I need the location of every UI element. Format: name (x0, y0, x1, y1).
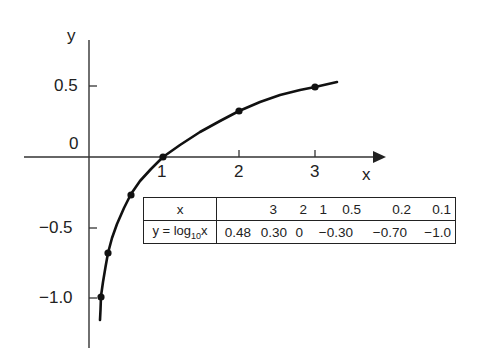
y-tick-label-m10: −1.0 (39, 289, 73, 306)
x-value: 0.1 (411, 202, 451, 217)
x-tick-label-3: 3 (310, 163, 319, 180)
data-point (311, 83, 318, 90)
x-values-cell: 3 2 1 0.5 0.2 0.1 (217, 198, 456, 221)
x-axis-arrow-icon (373, 151, 386, 163)
values-table: x 3 2 1 0.5 0.2 0.1 y = log10x 0.48 0.30… (143, 197, 456, 244)
table-row-y: y = log10x 0.48 0.30 0 −0.30 −0.70 −1.0 (144, 221, 456, 244)
data-point (104, 249, 111, 256)
y-value: −0.30 (303, 225, 353, 240)
x-value: 3 (251, 202, 277, 217)
y-tick-label-05: 0.5 (54, 77, 78, 94)
x-value: 1 (307, 202, 327, 217)
x-tick-label-1: 1 (157, 163, 166, 180)
y-value: 0 (287, 225, 303, 240)
x-value: 2 (277, 202, 307, 217)
y-axis-label: y (67, 27, 76, 44)
y-header-suffix: x (201, 223, 208, 238)
x-value: 0.2 (361, 202, 411, 217)
y-tick-label-m05: −0.5 (39, 219, 73, 236)
y-header-subscript: 10 (191, 231, 201, 241)
data-point (97, 293, 104, 300)
data-point (127, 191, 134, 198)
y-value: −1.0 (407, 225, 451, 240)
data-point (159, 153, 166, 160)
data-point (235, 107, 242, 114)
y-value: 0.48 (221, 225, 251, 240)
y-tick-label-0: 0 (69, 135, 78, 152)
y-value: 0.30 (251, 225, 287, 240)
x-tick-label-2: 2 (234, 163, 243, 180)
x-header-cell: x (144, 198, 217, 221)
y-value: −0.70 (353, 225, 407, 240)
y-header-text: y = log (152, 223, 191, 238)
table-row-x: x 3 2 1 0.5 0.2 0.1 (144, 198, 456, 221)
log-graph (0, 0, 482, 364)
x-axis-label: x (362, 166, 371, 183)
y-values-cell: 0.48 0.30 0 −0.30 −0.70 −1.0 (217, 221, 456, 244)
x-value: 0.5 (327, 202, 361, 217)
y-header-cell: y = log10x (144, 221, 217, 244)
